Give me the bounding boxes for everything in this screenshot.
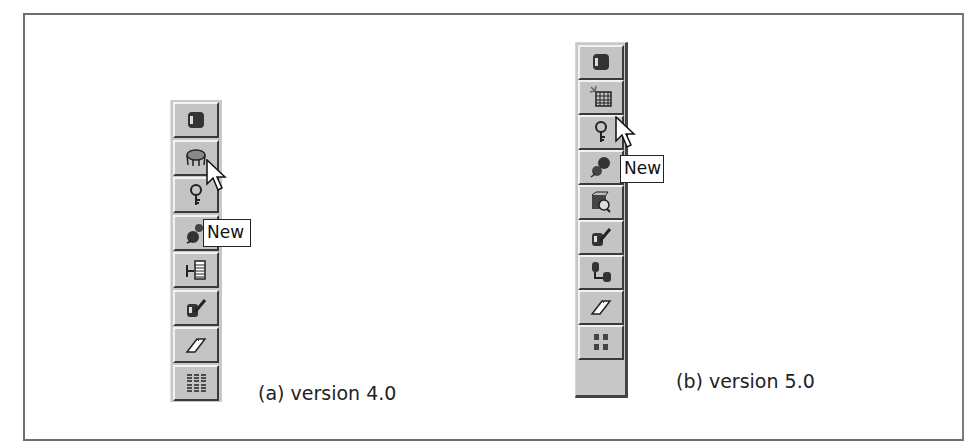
query-icon: [588, 189, 614, 215]
database-cylinder-icon: [183, 107, 209, 133]
eraser-icon: [588, 294, 614, 320]
modify-button[interactable]: [173, 290, 219, 326]
caption-version-5: (b) version 5.0: [676, 370, 815, 392]
database-cylinder-icon: [588, 49, 614, 75]
tooltip-new: New: [203, 219, 251, 247]
toolbar-version-4: [170, 100, 222, 402]
eraser-icon: [183, 332, 209, 358]
relationship-button[interactable]: [578, 150, 624, 185]
eraser-button[interactable]: [173, 327, 219, 363]
modify-button[interactable]: [578, 220, 624, 255]
link-icon: [588, 259, 614, 285]
mouse-pointer-icon: [206, 159, 230, 193]
key-icon: [588, 119, 614, 145]
grid-icon: [183, 370, 209, 396]
new-table-icon: [588, 84, 614, 110]
tooltip-new: New: [620, 155, 664, 183]
arrange-button[interactable]: [578, 325, 624, 360]
eraser-button[interactable]: [578, 290, 624, 325]
index-icon: [183, 257, 209, 283]
figure-frame: [23, 13, 964, 441]
new-table-button[interactable]: [578, 80, 624, 115]
toolbar-version-5: [575, 42, 628, 398]
index-button[interactable]: [173, 252, 219, 288]
mouse-pointer-icon: [615, 116, 639, 150]
query-button[interactable]: [578, 185, 624, 220]
database-button[interactable]: [173, 102, 219, 138]
arrange-icon: [588, 329, 614, 355]
caption-version-4: (a) version 4.0: [258, 382, 396, 404]
grid-button[interactable]: [173, 365, 219, 401]
modify-icon: [183, 295, 209, 321]
modify-icon: [588, 224, 614, 250]
database-button[interactable]: [578, 45, 624, 80]
relationship-icon: [588, 154, 614, 180]
link-button[interactable]: [578, 255, 624, 290]
